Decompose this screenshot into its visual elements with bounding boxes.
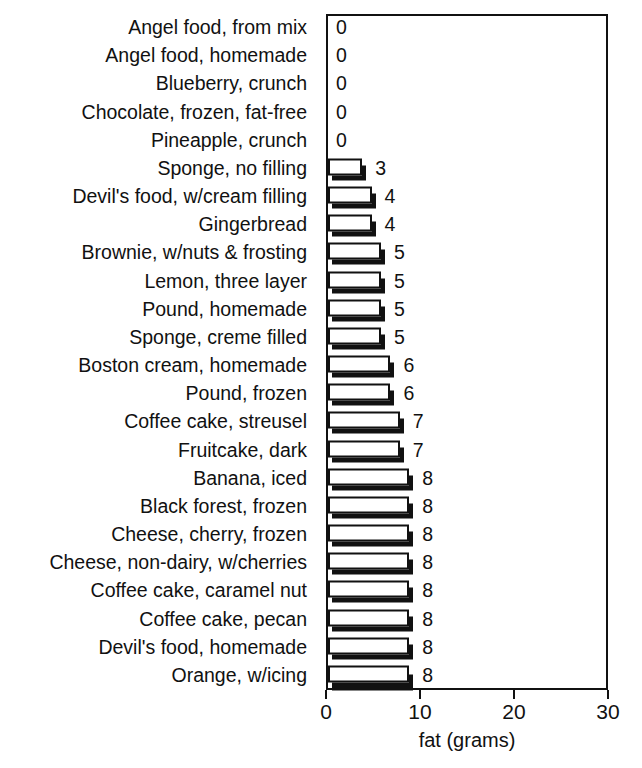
bar xyxy=(328,271,386,292)
bar-row: Pineapple, crunch0 xyxy=(0,127,642,155)
bar xyxy=(328,356,395,377)
bar-row: Gingerbread4 xyxy=(0,211,642,239)
x-axis-tick xyxy=(419,690,421,699)
bar-category-label: Chocolate, frozen, fat-free xyxy=(82,102,316,122)
x-axis-tick xyxy=(325,690,327,699)
bar xyxy=(328,384,395,405)
bar-face xyxy=(328,384,390,401)
bar-row: Devil's food, w/cream filling4 xyxy=(0,183,642,211)
bar-row: Coffee cake, pecan8 xyxy=(0,606,642,634)
bar-category-label: Cheese, non-dairy, w/cherries xyxy=(49,553,316,573)
bar-value-label: 8 xyxy=(422,666,433,686)
bar-value-label: 0 xyxy=(336,102,347,122)
bar xyxy=(328,553,414,574)
bar-category-label: Coffee cake, pecan xyxy=(139,609,316,629)
bar-category-label: Coffee cake, streusel xyxy=(124,412,316,432)
bar-face xyxy=(328,158,362,175)
bar-value-label: 0 xyxy=(336,131,347,151)
bar-face xyxy=(328,440,400,457)
bar-value-label: 8 xyxy=(422,469,433,489)
bar xyxy=(328,496,414,517)
bar-row: Blueberry, crunch0 xyxy=(0,70,642,98)
bar xyxy=(328,412,405,433)
bar-row: Angel food, from mix0 xyxy=(0,14,642,42)
bar-category-label: Angel food, from mix xyxy=(128,18,316,38)
bar-value-label: 5 xyxy=(394,243,405,262)
bar-category-label: Pineapple, crunch xyxy=(151,131,316,151)
bar-face xyxy=(328,271,381,288)
bar-face xyxy=(328,665,409,682)
bar-value-label: 7 xyxy=(413,412,424,432)
bar xyxy=(328,327,386,348)
bar-category-label: Gingerbread xyxy=(199,215,316,235)
bar-category-label: Fruitcake, dark xyxy=(178,440,316,460)
bar-category-label: Devil's food, homemade xyxy=(98,638,316,658)
bar-value-label: 8 xyxy=(422,581,433,601)
bar-category-label: Cheese, cherry, frozen xyxy=(111,525,316,545)
bar-value-label: 8 xyxy=(422,525,433,545)
bar-category-label: Devil's food, w/cream filling xyxy=(72,187,316,207)
bar-value-label: 6 xyxy=(403,384,414,404)
bar-row: Coffee cake, streusel7 xyxy=(0,408,642,436)
x-axis-tick xyxy=(607,690,609,699)
bar-category-label: Coffee cake, caramel nut xyxy=(91,581,316,601)
bar-category-label: Angel food, homemade xyxy=(105,46,316,66)
bar xyxy=(328,440,405,461)
bar-value-label: 0 xyxy=(336,18,347,38)
bar-category-label: Banana, iced xyxy=(193,469,316,489)
bar-row: Black forest, frozen8 xyxy=(0,493,642,521)
bar-value-label: 0 xyxy=(336,46,347,66)
bar-value-label: 5 xyxy=(394,300,405,320)
x-axis-tick-label: 20 xyxy=(502,701,525,722)
bar-value-label: 0 xyxy=(336,74,347,94)
bar xyxy=(328,215,377,236)
bar-category-label: Sponge, creme filled xyxy=(129,328,316,348)
x-axis-tick-label: 30 xyxy=(596,701,619,722)
x-axis-tick-label: 10 xyxy=(408,701,431,722)
bar-chart: Angel food, from mix0Angel food, homemad… xyxy=(0,0,642,768)
bar-face xyxy=(328,299,381,316)
bar-value-label: 5 xyxy=(394,271,405,291)
bar-face xyxy=(328,215,372,232)
bar-row: Lemon, three layer5 xyxy=(0,268,642,296)
x-axis: fat (grams) 0102030 xyxy=(0,690,642,768)
bar-face xyxy=(328,468,409,485)
bar-face xyxy=(328,356,390,373)
bar-row: Banana, iced8 xyxy=(0,465,642,493)
bar-value-label: 5 xyxy=(394,328,405,348)
bar-face xyxy=(328,581,409,598)
bar xyxy=(328,299,386,320)
bar-face xyxy=(328,412,400,429)
bar-row: Sponge, no filling3 xyxy=(0,155,642,183)
bar-face xyxy=(328,243,381,260)
bar xyxy=(328,243,386,264)
bar-category-label: Sponge, no filling xyxy=(157,159,316,179)
bar-category-label: Pound, homemade xyxy=(142,300,316,320)
x-axis-tick xyxy=(513,690,515,699)
bar-category-label: Brownie, w/nuts & frosting xyxy=(82,243,316,262)
bar-row: Devil's food, homemade8 xyxy=(0,634,642,662)
bar-row: Sponge, creme filled5 xyxy=(0,324,642,352)
bar-row: Pound, frozen6 xyxy=(0,380,642,408)
bar-value-label: 8 xyxy=(422,497,433,517)
bar-face xyxy=(328,496,409,513)
x-axis-tick-label: 0 xyxy=(320,701,332,722)
bar-row: Fruitcake, dark7 xyxy=(0,437,642,465)
bar-value-label: 4 xyxy=(385,187,396,207)
bar-category-label: Orange, w/icing xyxy=(172,666,316,686)
bar-face xyxy=(328,525,409,542)
bar-category-label: Pound, frozen xyxy=(186,384,316,404)
bar-category-label: Lemon, three layer xyxy=(144,271,316,291)
bar-face xyxy=(328,327,381,344)
bar-value-label: 3 xyxy=(375,159,386,179)
bar-face xyxy=(328,609,409,626)
bar-row: Orange, w/icing8 xyxy=(0,662,642,690)
bar-value-label: 4 xyxy=(385,215,396,235)
bar-value-label: 6 xyxy=(403,356,414,376)
bar-row: Brownie, w/nuts & frosting5 xyxy=(0,239,642,267)
bar xyxy=(328,581,414,602)
bar-row: Chocolate, frozen, fat-free0 xyxy=(0,99,642,127)
bar xyxy=(328,187,377,208)
bar-value-label: 8 xyxy=(422,609,433,629)
x-axis-label: fat (grams) xyxy=(419,730,516,750)
